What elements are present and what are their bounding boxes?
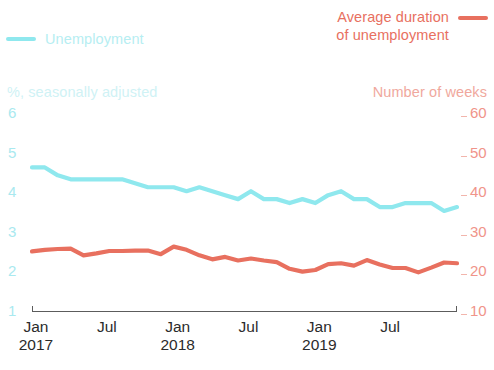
x-tick-year: 2019 bbox=[289, 336, 349, 354]
x-tick-Jul: Jul bbox=[219, 318, 279, 336]
y-tick-left-2: 2 bbox=[8, 263, 16, 278]
y-tick-left-3: 3 bbox=[8, 224, 16, 239]
x-tick-Jan-2017: Jan2017 bbox=[6, 318, 66, 354]
x-tick-month: Jul bbox=[97, 318, 117, 335]
x-axis-line bbox=[32, 311, 457, 312]
x-tick-month: Jan bbox=[307, 318, 332, 335]
x-axis-cap-left bbox=[32, 306, 33, 312]
y-tick-dash-right-60 bbox=[461, 116, 467, 117]
series-line-unemployment bbox=[32, 247, 457, 273]
legend-average-duration: Average duration of unemployment bbox=[336, 8, 488, 44]
x-tick-month: Jan bbox=[24, 318, 49, 335]
x-tick-year: 2018 bbox=[148, 336, 208, 354]
legend-label-unemployment: Unemployment bbox=[45, 30, 144, 48]
x-tick-month: Jan bbox=[165, 318, 190, 335]
x-tick-month: Jul bbox=[239, 318, 259, 335]
y-tick-dash-right-40 bbox=[461, 195, 467, 196]
y-tick-dash-right-30 bbox=[461, 235, 467, 236]
legend-label-average-duration-line2: of unemployment bbox=[336, 26, 449, 44]
y-tick-dash-right-50 bbox=[461, 156, 467, 157]
y-tick-left-4: 4 bbox=[8, 184, 16, 199]
legend-swatch-average-duration-icon bbox=[458, 16, 488, 20]
left-axis-caption: %, seasonally adjusted bbox=[7, 84, 158, 100]
plot-area bbox=[32, 112, 457, 310]
y-tick-right-20: 20 bbox=[470, 263, 487, 278]
legend-label-average-duration-line1: Average duration bbox=[337, 9, 449, 25]
x-tick-Jul: Jul bbox=[360, 318, 420, 336]
y-tick-right-10: 10 bbox=[470, 303, 487, 318]
x-tick-Jan-2018: Jan2018 bbox=[148, 318, 208, 354]
dual-axis-line-chart: Unemployment Average duration of unemplo… bbox=[0, 0, 494, 370]
legend-unemployment: Unemployment bbox=[6, 30, 144, 48]
y-tick-dash-right-20 bbox=[461, 274, 467, 275]
legend-label-average-duration: Average duration of unemployment bbox=[336, 8, 449, 44]
y-tick-dash-right-10 bbox=[461, 314, 467, 315]
x-axis-cap-right bbox=[456, 306, 457, 312]
y-tick-right-30: 30 bbox=[470, 224, 487, 239]
y-tick-left-1: 1 bbox=[8, 303, 16, 318]
x-tick-Jul: Jul bbox=[77, 318, 137, 336]
y-tick-left-6: 6 bbox=[8, 105, 16, 120]
right-axis-caption: Number of weeks bbox=[373, 84, 487, 100]
legend-swatch-unemployment-icon bbox=[6, 37, 36, 41]
x-tick-month: Jul bbox=[380, 318, 400, 335]
x-tick-Jan-2019: Jan2019 bbox=[289, 318, 349, 354]
y-tick-left-5: 5 bbox=[8, 145, 16, 160]
y-tick-right-50: 50 bbox=[470, 145, 487, 160]
y-tick-right-40: 40 bbox=[470, 184, 487, 199]
x-tick-year: 2017 bbox=[6, 336, 66, 354]
series-line-average-duration bbox=[32, 167, 457, 211]
y-tick-right-60: 60 bbox=[470, 105, 487, 120]
